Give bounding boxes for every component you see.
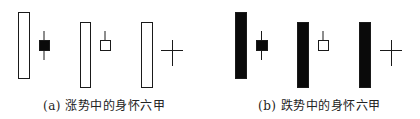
large-black-candle (236, 13, 247, 79)
small-white-candle (319, 41, 329, 51)
large-white-candle (19, 13, 30, 79)
panel-downtrend (236, 13, 403, 88)
large-white-candle (81, 23, 91, 88)
small-white-candle (101, 41, 111, 51)
small-black-candle (257, 41, 268, 51)
caption-downtrend: (b) 跌势中的身怀六甲 (258, 96, 381, 113)
large-white-candle (142, 23, 153, 88)
large-black-candle (298, 23, 309, 88)
panel-uptrend (19, 13, 184, 88)
large-black-candle (360, 23, 371, 88)
caption-uptrend: (a) 涨势中的身怀六甲 (43, 96, 165, 113)
small-black-candle (40, 41, 50, 51)
